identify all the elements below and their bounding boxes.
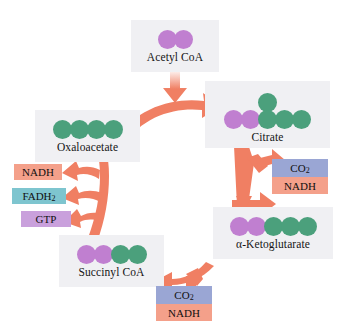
molecule-label: Acetyl CoA [147, 51, 203, 63]
molecule-succinyl-coa: Succinyl CoA [59, 235, 164, 287]
arrow-branch-to-nadh [62, 161, 100, 181]
arrow-acetyl-coa-to-cycle [163, 72, 187, 103]
gas-line-nadh: NADH [156, 304, 212, 321]
succinyl-coa-atoms [77, 245, 147, 264]
gas-subscript: 2 [190, 293, 194, 302]
gas-line-nadh: NADH [272, 177, 328, 194]
carbon-atom-green [70, 120, 89, 139]
molecule-oxaloacetate: Oxaloacetate [35, 110, 140, 162]
acetyl-coa-atoms [158, 30, 193, 49]
molecule-acetyl-coa: Acetyl CoA [131, 20, 219, 72]
carbon-atom-green [128, 245, 147, 264]
carbon-atom-purple [230, 217, 249, 236]
carbon-atom-green [264, 217, 283, 236]
gas-text: CO [174, 289, 189, 301]
gas-line-co2: CO2 [272, 159, 328, 177]
carbon-atom-green [281, 217, 300, 236]
oxaloacetate-atoms [53, 120, 123, 139]
molecule-label: α-Ketoglutarate [236, 238, 310, 250]
gas-text: NADH [284, 180, 316, 192]
product-label-nadh: NADH [14, 164, 62, 180]
carbon-atom-green [87, 120, 106, 139]
alpha-ketoglutarate-atoms [230, 217, 317, 236]
citric-acid-cycle-diagram: Acetyl CoA Citrate α-Ketoglutarate [0, 0, 339, 332]
molecule-label: Citrate [252, 131, 284, 143]
carbon-atom-green [104, 120, 123, 139]
citrate-atoms [224, 93, 311, 129]
carbon-atom-purple [94, 245, 113, 264]
gas-release-co2-nadh-bottom: CO2 NADH [156, 286, 212, 321]
gas-text: NADH [168, 307, 200, 319]
carbon-atom-purple [247, 217, 266, 236]
carbon-atom-purple [174, 30, 193, 49]
product-subscript: 2 [52, 194, 56, 203]
carbon-atom-green [111, 245, 130, 264]
molecule-label: Succinyl CoA [78, 266, 144, 278]
product-label-gtp: GTP [21, 211, 71, 227]
carbon-atom-green [298, 217, 317, 236]
molecule-citrate: Citrate [205, 81, 330, 148]
arrow-branch-to-fadh2 [62, 186, 102, 205]
carbon-atom-green [258, 93, 277, 112]
carbon-atom-green [292, 110, 311, 129]
product-text: FADH [22, 190, 51, 202]
gas-text: CO [290, 162, 305, 174]
product-label-fadh2: FADH2 [12, 188, 66, 204]
gas-subscript: 2 [306, 166, 310, 175]
gas-release-co2-nadh-right: CO2 NADH [272, 159, 328, 194]
citrate-atom-stack [258, 93, 277, 129]
molecule-label: Oxaloacetate [57, 141, 118, 153]
carbon-atom-green [53, 120, 72, 139]
product-text: NADH [22, 166, 54, 178]
carbon-atom-purple [77, 245, 96, 264]
molecule-alpha-ketoglutarate: α-Ketoglutarate [213, 207, 333, 259]
product-text: GTP [36, 213, 57, 225]
gas-line-co2: CO2 [156, 286, 212, 304]
